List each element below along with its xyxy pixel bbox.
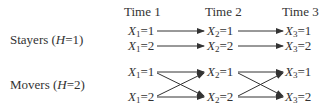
transition-arrows [0,0,324,111]
